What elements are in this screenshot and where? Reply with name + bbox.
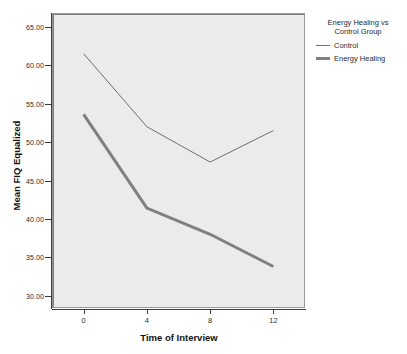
y-axis-tick — [45, 257, 51, 258]
x-axis-tick — [210, 309, 211, 314]
y-axis-tick-label: 55.00 — [26, 100, 44, 107]
legend-title-line-2: Control Group — [312, 27, 404, 36]
legend-item[interactable]: Energy Healing — [312, 54, 407, 63]
legend-title: Energy Healing vs Control Group — [312, 18, 404, 36]
x-axis-tick — [84, 309, 85, 314]
y-axis-title: Mean FIQ Equalized — [11, 106, 22, 226]
y-axis-line — [51, 13, 52, 309]
y-axis-tick-label: 40.00 — [26, 215, 44, 222]
x-axis-line — [52, 309, 306, 310]
legend-title-line-1: Energy Healing vs — [312, 18, 404, 27]
y-axis-tick — [45, 27, 51, 28]
legend-line-swatch — [316, 57, 330, 60]
legend-item-label: Control — [334, 41, 358, 50]
y-axis-tick — [45, 65, 51, 66]
y-axis-tick-label: 45.00 — [26, 177, 44, 184]
y-axis-tick — [45, 181, 51, 182]
legend-entries: ControlEnergy Healing — [312, 41, 407, 63]
y-axis-tick-label: 30.00 — [26, 292, 44, 299]
y-axis-tick — [45, 142, 51, 143]
series-line-energy-healing — [84, 114, 274, 266]
y-axis-tick-label: 50.00 — [26, 139, 44, 146]
legend-item-label: Energy Healing — [334, 54, 385, 63]
legend-line-swatch — [316, 45, 330, 46]
x-axis-tick — [147, 309, 148, 314]
x-axis-tick — [273, 309, 274, 314]
y-axis-tick-label: 35.00 — [26, 254, 44, 261]
y-axis-tick — [45, 219, 51, 220]
legend: Energy Healing vs Control Group ControlE… — [312, 18, 407, 67]
x-axis-tick-label: 12 — [269, 316, 277, 325]
y-axis-tick-label: 60.00 — [26, 62, 44, 69]
series-line-control — [84, 54, 274, 162]
legend-item[interactable]: Control — [312, 41, 407, 50]
y-axis-tick — [45, 296, 51, 297]
x-axis-tick-label: 4 — [145, 316, 149, 325]
x-axis-title: Time of Interview — [52, 332, 306, 343]
y-axis-tick — [45, 104, 51, 105]
x-axis-tick-label: 0 — [82, 316, 86, 325]
x-axis-tick-label: 8 — [208, 316, 212, 325]
y-axis-tick-label: 65.00 — [26, 23, 44, 30]
line-chart: 65.0060.0055.0050.0045.0040.0035.0030.00… — [0, 0, 407, 354]
